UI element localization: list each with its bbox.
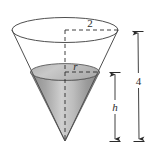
height-h-label: h — [112, 101, 118, 113]
cone-diagram-figure: h 4 2 r — [0, 0, 155, 153]
height-4-dimension: 4 — [131, 32, 146, 142]
top-radius-label: 2 — [87, 17, 93, 29]
cone-diagram-svg: h 4 2 r — [0, 0, 155, 153]
height-h-dimension: h — [108, 73, 122, 142]
radius-labels: 2 r — [73, 17, 92, 72]
liquid-radius-label: r — [73, 60, 78, 72]
height-4-label: 4 — [136, 75, 142, 87]
